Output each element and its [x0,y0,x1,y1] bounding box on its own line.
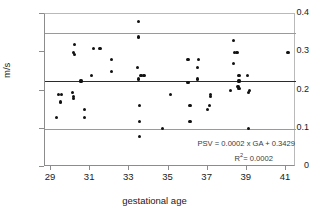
data-point [247,91,250,94]
data-point [137,35,140,38]
data-point [71,91,74,94]
y-tick-label: 0.4 [275,8,309,17]
x-tick-label: 33 [116,172,140,182]
data-point [73,43,76,46]
data-point [197,58,200,61]
data-point [138,104,141,107]
data-point [90,74,93,77]
data-point [83,116,86,119]
x-tick-label: 35 [156,172,180,182]
data-point [232,39,235,42]
reference-line-lower-limit [45,129,296,130]
data-point [98,47,101,50]
x-tick-label: 31 [77,172,101,182]
data-point [137,20,140,23]
y-tick-label: 0.3 [275,46,309,55]
data-point [186,58,189,61]
x-tick-mark [128,166,129,170]
x-tick-mark [285,166,286,170]
data-point [73,53,76,56]
data-point [137,77,140,80]
data-point [110,70,113,73]
x-axis-title: gestational age [0,196,309,206]
data-point [83,108,86,111]
data-point [186,81,189,84]
x-tick-label: 29 [38,172,62,182]
data-point [55,116,58,119]
data-point [188,104,191,107]
data-point [235,51,238,54]
x-tick-mark [50,166,51,170]
x-tick-label: 41 [273,172,297,182]
data-point [232,62,235,65]
r-squared-annotation: R2= 0.0002 [235,151,273,163]
data-point [229,89,232,92]
data-point [59,100,62,103]
y-tick-mark [39,51,44,52]
y-tick-label: 0.2 [275,85,309,94]
data-point [237,74,240,77]
data-point [208,104,211,107]
r-squared-value: = 0.0002 [243,154,273,163]
y-tick-mark [39,166,44,167]
data-point [206,108,209,111]
data-point [246,74,249,77]
x-tick-mark [246,166,247,170]
reference-line-upper-limit [45,33,296,34]
scatter-plot-figure: 00.10.20.30.4 29313335373941 m/s gestati… [0,0,309,218]
data-point [237,87,240,90]
data-point [92,47,95,50]
data-point [188,120,191,123]
data-point [196,66,199,69]
data-point [80,79,83,82]
data-point [169,93,172,96]
data-point [72,97,75,100]
y-tick-mark [39,13,44,14]
y-tick-mark [39,90,44,91]
x-tick-label: 39 [234,172,258,182]
x-tick-mark [207,166,208,170]
data-point [138,120,141,123]
data-point [138,135,141,138]
y-tick-label: 0.1 [275,123,309,132]
y-tick-label: 0 [275,161,309,170]
y-tick-mark [39,128,44,129]
regression-equation-annotation: PSV = 0.0002 x GA + 0.3429 [197,139,295,148]
data-point [110,58,113,61]
data-point [136,66,139,69]
x-tick-mark [89,166,90,170]
data-point [60,93,63,96]
data-point [142,74,145,77]
x-tick-mark [168,166,169,170]
data-point [209,95,212,98]
data-point [237,79,240,82]
y-axis-title: m/s [2,63,12,78]
x-tick-label: 37 [195,172,219,182]
